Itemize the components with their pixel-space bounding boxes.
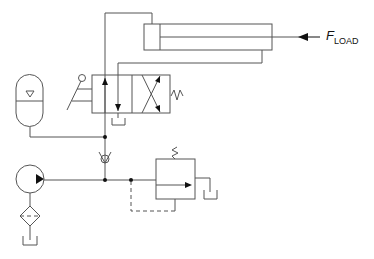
cylinder bbox=[144, 24, 300, 50]
tank-icon bbox=[112, 118, 125, 125]
spring-icon bbox=[171, 90, 183, 100]
spring-icon bbox=[172, 147, 178, 159]
junction-dot bbox=[103, 135, 107, 139]
load-force-label: FLOAD bbox=[326, 28, 358, 46]
relief-valve bbox=[131, 147, 217, 211]
load-arrow-icon bbox=[298, 33, 320, 41]
directional-valve bbox=[92, 75, 183, 125]
hydraulic-circuit-diagram bbox=[0, 0, 374, 259]
pipe-rod-end bbox=[118, 50, 262, 75]
pipe-cap-end bbox=[105, 13, 152, 180]
junction-dot bbox=[103, 178, 107, 182]
lever-icon bbox=[67, 75, 92, 111]
pump bbox=[16, 165, 44, 206]
filter bbox=[20, 206, 40, 245]
